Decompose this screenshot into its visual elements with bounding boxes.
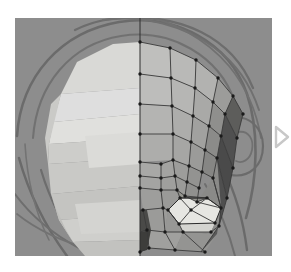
vertex[interactable]	[217, 224, 220, 227]
vertex[interactable]	[215, 156, 218, 159]
vertex[interactable]	[219, 206, 222, 209]
vertex[interactable]	[203, 148, 206, 151]
face-left-cheekbone-plane	[85, 132, 140, 168]
face-left-chin	[73, 240, 140, 256]
vertex[interactable]	[197, 186, 200, 189]
face-r-temple-1	[140, 104, 173, 134]
vertex[interactable]	[235, 136, 238, 139]
vertex[interactable]	[209, 230, 212, 233]
triangle-right-glyph	[276, 127, 288, 147]
vertex[interactable]	[183, 194, 186, 197]
vertex[interactable]	[163, 230, 166, 233]
vertex[interactable]	[178, 196, 181, 199]
viewport-3d[interactable]	[15, 18, 272, 256]
vertex[interactable]	[205, 196, 208, 199]
vertex[interactable]	[138, 72, 141, 75]
vertex[interactable]	[231, 94, 234, 97]
vertex[interactable]	[159, 176, 162, 179]
viewport-canvas[interactable]	[15, 18, 272, 256]
vertex[interactable]	[181, 230, 184, 233]
face-r-brow-1	[140, 74, 172, 106]
vertex[interactable]	[207, 124, 210, 127]
vertex[interactable]	[175, 188, 178, 191]
vertex[interactable]	[185, 180, 188, 183]
vertex[interactable]	[171, 132, 174, 135]
vertex[interactable]	[189, 208, 192, 211]
vertex[interactable]	[138, 102, 141, 105]
vertex[interactable]	[171, 158, 174, 161]
vertex[interactable]	[195, 200, 198, 203]
vertex[interactable]	[141, 208, 144, 211]
vertex[interactable]	[193, 86, 196, 89]
vertex[interactable]	[200, 170, 203, 173]
vertex[interactable]	[168, 46, 171, 49]
face-r-eye-upper-1	[140, 162, 161, 178]
vertex[interactable]	[211, 176, 214, 179]
vertex[interactable]	[159, 188, 162, 191]
vertex[interactable]	[138, 174, 141, 177]
vertex[interactable]	[203, 250, 206, 253]
vertex[interactable]	[166, 208, 169, 211]
vertex[interactable]	[191, 114, 194, 117]
vertex[interactable]	[213, 221, 216, 224]
vertex[interactable]	[145, 228, 148, 231]
vertex[interactable]	[138, 186, 141, 189]
vertex[interactable]	[187, 164, 190, 167]
vertex[interactable]	[177, 222, 180, 225]
vertex[interactable]	[161, 206, 164, 209]
vertex[interactable]	[138, 40, 141, 43]
vertex[interactable]	[173, 174, 176, 177]
application-root	[0, 0, 291, 272]
vertex[interactable]	[219, 134, 222, 137]
vertex[interactable]	[241, 112, 244, 115]
vertex[interactable]	[170, 104, 173, 107]
sidebar-toggle-button[interactable]	[272, 124, 291, 150]
vertex[interactable]	[225, 196, 228, 199]
vertex[interactable]	[173, 248, 176, 251]
vertex[interactable]	[138, 132, 141, 135]
vertex[interactable]	[138, 250, 141, 253]
vertex[interactable]	[211, 100, 214, 103]
vertex[interactable]	[159, 162, 162, 165]
vertex[interactable]	[231, 166, 234, 169]
face-r-cheek-mid-1	[140, 188, 163, 210]
vertex[interactable]	[147, 246, 150, 249]
vertex[interactable]	[138, 160, 141, 163]
vertex[interactable]	[194, 58, 197, 61]
vertex[interactable]	[189, 140, 192, 143]
triangle-right-icon[interactable]	[272, 124, 291, 150]
vertex[interactable]	[169, 76, 172, 79]
face-r-cheek-1	[140, 134, 173, 162]
vertex[interactable]	[216, 76, 219, 79]
vertex[interactable]	[223, 112, 226, 115]
face-left-lower-highlight	[75, 200, 140, 234]
